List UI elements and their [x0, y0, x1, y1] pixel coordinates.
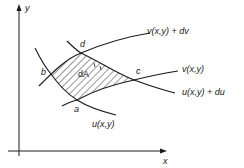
y-axis-arrow-icon: [17, 4, 22, 11]
x-axis-arrow-icon: [160, 149, 167, 154]
x-axis-label: x: [163, 157, 168, 166]
y-axis-label: y: [25, 4, 30, 13]
y-axis: [17, 4, 22, 156]
curvilinear-coordinates-diagram: [0, 0, 244, 168]
point-d-label: d: [80, 40, 85, 49]
point-a-label: a: [74, 105, 79, 114]
point-b-label: b: [41, 68, 46, 77]
point-c-label: c: [136, 67, 141, 76]
area-element-dA-hatching: [40, 45, 140, 105]
curve-label-v-plus-dv: v(x,y) + dv: [147, 27, 189, 36]
curve-label-v: v(x,y): [182, 65, 204, 74]
curve-label-u: u(x,y): [92, 120, 115, 129]
curve-label-u-plus-du: u(x,y) + du: [182, 88, 225, 97]
x-axis: [8, 149, 167, 154]
area-element-label: dA: [78, 70, 89, 79]
